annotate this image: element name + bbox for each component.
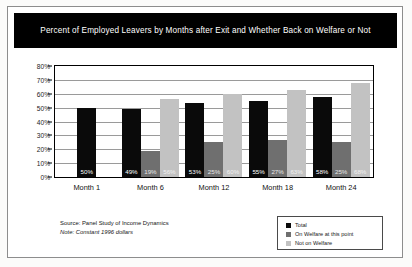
- legend-item-label: On Welfare at this point: [295, 232, 353, 238]
- y-axis-tick-mark: [48, 79, 52, 80]
- x-axis-tick-label: Month 12: [199, 183, 230, 192]
- y-axis-tick-mark: [48, 93, 52, 94]
- bar[interactable]: 58%: [313, 97, 332, 177]
- bar[interactable]: 50%: [77, 108, 96, 177]
- chart-legend: TotalOn Welfare at this pointNot on Welf…: [277, 216, 383, 250]
- footnote-note: Note: Constant 1996 dollars: [60, 228, 230, 237]
- bar[interactable]: 25%: [204, 142, 223, 177]
- bar-value-label: 68%: [354, 169, 366, 175]
- x-axis: Month 1Month 6Month 12Month 18Month 24: [55, 183, 373, 197]
- chart-figure: Percent of Employed Leavers by Months af…: [7, 6, 403, 258]
- bar[interactable]: 27%: [268, 140, 287, 177]
- y-axis-tick-mark: [48, 163, 52, 164]
- x-axis-tick-label: Month 1: [73, 183, 100, 192]
- legend-swatch-icon: [286, 241, 291, 246]
- bar[interactable]: 68%: [351, 83, 370, 177]
- bar[interactable]: 49%: [122, 109, 141, 177]
- legend-item[interactable]: On Welfare at this point: [286, 230, 382, 239]
- bar-value-label: 58%: [316, 169, 328, 175]
- legend-item[interactable]: Total: [286, 221, 382, 230]
- bar-value-label: 25%: [335, 169, 347, 175]
- bars-layer: 50%49%19%56%53%25%60%55%27%63%58%25%68%: [55, 66, 373, 177]
- bar-group: 50%: [55, 66, 119, 177]
- bar-value-label: 50%: [81, 169, 93, 175]
- legend-swatch-icon: [286, 223, 291, 228]
- y-axis-tick-mark: [48, 107, 52, 108]
- y-axis-tick-mark: [48, 66, 52, 67]
- chart-title-banner: Percent of Employed Leavers by Months af…: [14, 13, 397, 48]
- bar[interactable]: 60%: [223, 94, 242, 177]
- bar[interactable]: 53%: [185, 103, 204, 177]
- bar-value-label: 25%: [208, 169, 220, 175]
- y-axis-tick-mark: [48, 135, 52, 136]
- bar[interactable]: 63%: [287, 90, 306, 177]
- bar-group: 58%25%68%: [309, 66, 373, 177]
- bar-value-label: 27%: [271, 169, 283, 175]
- bar-value-label: 56%: [163, 169, 175, 175]
- bar[interactable]: 55%: [249, 101, 268, 177]
- footnotes: Source: Panel Study of Income Dynamics N…: [60, 219, 230, 237]
- y-axis-tick-mark: [48, 121, 52, 122]
- bar-group: 55%27%63%: [246, 66, 310, 177]
- bar-group: 49%19%56%: [119, 66, 183, 177]
- bar[interactable]: 25%: [332, 142, 351, 177]
- bar[interactable]: 56%: [160, 99, 179, 177]
- legend-item-label: Not on Welfare: [295, 241, 332, 247]
- legend-swatch-icon: [286, 232, 291, 237]
- chart-title: Percent of Employed Leavers by Months af…: [40, 26, 370, 35]
- bar-value-label: 53%: [189, 169, 201, 175]
- bar-value-label: 60%: [227, 169, 239, 175]
- footnote-source: Source: Panel Study of Income Dynamics: [60, 219, 230, 228]
- legend-item-label: Total: [295, 223, 307, 229]
- plot-area: 0%10%20%30%40%50%60%70%80% 50%49%19%56%5…: [14, 55, 397, 205]
- legend-item[interactable]: Not on Welfare: [286, 239, 382, 248]
- bar-value-label: 63%: [290, 169, 302, 175]
- bar-value-label: 19%: [144, 169, 156, 175]
- y-axis: 0%10%20%30%40%50%60%70%80%: [14, 65, 52, 178]
- y-axis-tick-mark: [48, 149, 52, 150]
- bar-group: 53%25%60%: [182, 66, 246, 177]
- bar-value-label: 49%: [125, 169, 137, 175]
- scanned-page: Percent of Employed Leavers by Months af…: [0, 0, 412, 267]
- x-axis-tick-label: Month 6: [137, 183, 164, 192]
- x-axis-tick-label: Month 18: [262, 183, 293, 192]
- bar[interactable]: 19%: [141, 151, 160, 177]
- x-axis-tick-label: Month 24: [326, 183, 357, 192]
- bar-value-label: 55%: [252, 169, 264, 175]
- y-axis-tick-mark: [48, 177, 52, 178]
